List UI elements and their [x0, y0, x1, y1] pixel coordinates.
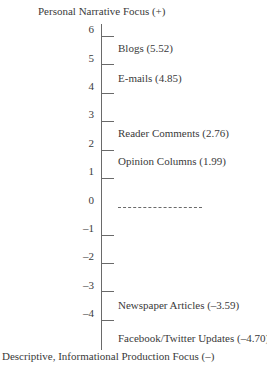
tick-label: –1	[74, 222, 94, 234]
point-label-emails: E-mails (4.85)	[118, 72, 182, 84]
vertical-axis	[101, 24, 102, 350]
tick-mark	[102, 178, 114, 179]
tick-mark	[102, 263, 114, 264]
tick-label: 1	[74, 165, 94, 177]
axis-label-top: Personal Narrative Focus (+)	[38, 5, 165, 17]
tick-label: 2	[74, 137, 94, 149]
tick-label: –3	[74, 279, 94, 291]
tick-mark	[102, 36, 114, 37]
tick-mark	[102, 235, 114, 236]
point-label-opinion-columns: Opinion Columns (1.99)	[118, 155, 226, 167]
tick-mark	[102, 64, 114, 65]
tick-label: 5	[74, 52, 94, 64]
point-label-blogs: Blogs (5.52)	[118, 42, 173, 54]
tick-label: 6	[74, 23, 94, 35]
tick-mark	[102, 93, 114, 94]
zero-line	[118, 207, 202, 208]
point-label-facebook-twitter: Facebook/Twitter Updates (–4.70)	[118, 332, 267, 344]
tick-mark	[102, 291, 114, 292]
tick-label: 0	[74, 194, 94, 206]
tick-label: 4	[74, 80, 94, 92]
tick-mark	[102, 320, 114, 321]
point-label-newspaper-articles: Newspaper Articles (–3.59)	[118, 299, 239, 311]
tick-label: 3	[74, 108, 94, 120]
tick-mark	[102, 121, 114, 122]
point-label-reader-comments: Reader Comments (2.76)	[118, 127, 229, 139]
axis-label-bottom: Descriptive, Informational Production Fo…	[2, 350, 214, 362]
tick-mark	[102, 150, 114, 151]
tick-label: –2	[74, 250, 94, 262]
tick-label: –4	[74, 307, 94, 319]
